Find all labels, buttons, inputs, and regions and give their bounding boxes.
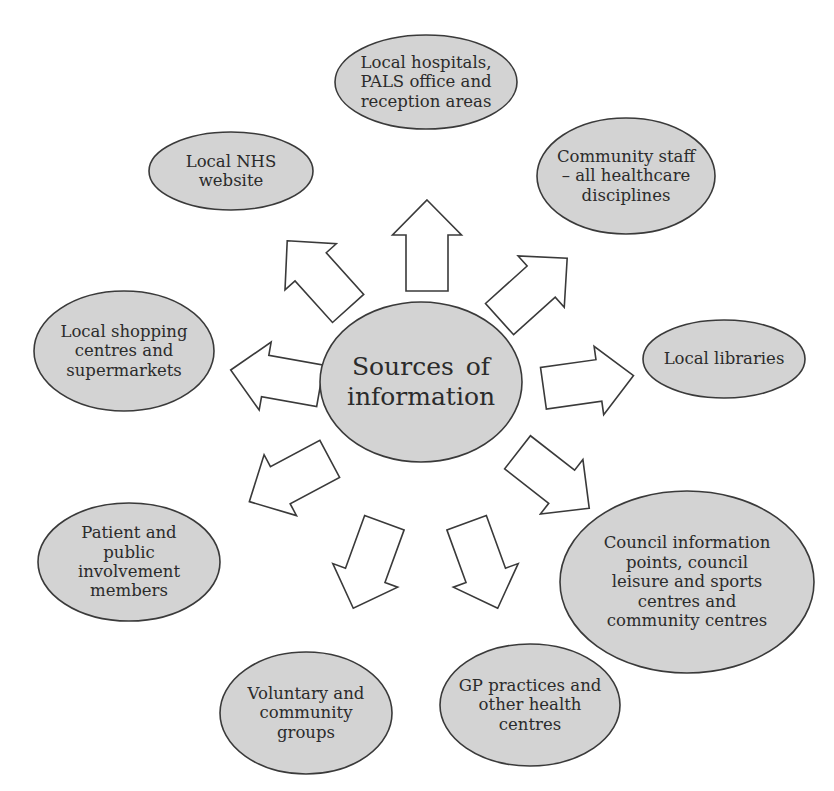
center-node-label: Sources of information — [320, 302, 522, 462]
node-label-libraries: Local libraries — [643, 320, 805, 398]
node-label-nhs-website: Local NHS website — [149, 132, 313, 210]
arrow-icon-to-gp-practices — [434, 511, 530, 620]
arrow-icon-to-hospitals — [393, 200, 462, 291]
node-label-hospitals: Local hospitals, PALS office and recepti… — [335, 35, 517, 129]
node-label-shopping: Local shopping centres and supermarkets — [34, 291, 214, 411]
node-label-community-staff: Community staff – all healthcare discipl… — [537, 118, 715, 234]
arrow-icon-to-libraries — [539, 341, 639, 422]
node-label-voluntary: Voluntary and community groups — [220, 652, 392, 774]
node-label-gp-practices: GP practices and other health centres — [440, 644, 620, 766]
arrow-icon-to-shopping — [225, 336, 327, 420]
arrow-icon-to-voluntary — [321, 511, 417, 620]
node-label-patient-public: Patient and public involvement members — [38, 503, 220, 621]
